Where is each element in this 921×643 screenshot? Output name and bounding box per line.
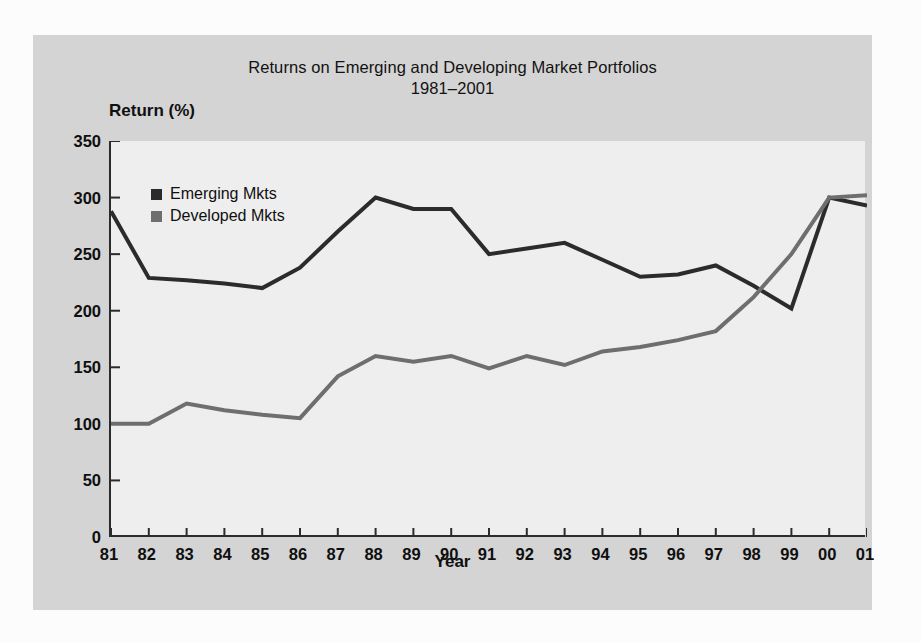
legend-label: Emerging Mkts	[170, 185, 277, 203]
figure-page: Returns on Emerging and Developing Marke…	[0, 0, 921, 643]
chart-legend: Emerging MktsDeveloped Mkts	[151, 183, 285, 227]
chart-title-line2: 1981–2001	[33, 78, 872, 99]
y-tick-label: 300	[41, 188, 101, 207]
series-line	[111, 195, 867, 424]
y-axis-label: Return (%)	[109, 101, 195, 121]
y-tick-label: 100	[41, 414, 101, 433]
y-tick-label: 250	[41, 245, 101, 264]
y-tick-label: 50	[41, 471, 101, 490]
y-tick-label: 0	[41, 528, 101, 547]
legend-swatch-icon	[151, 189, 162, 200]
chart-panel: Returns on Emerging and Developing Marke…	[33, 35, 872, 610]
x-axis-label: Year	[33, 552, 872, 572]
y-tick-label: 200	[41, 301, 101, 320]
legend-item: Developed Mkts	[151, 205, 285, 227]
legend-item: Emerging Mkts	[151, 183, 285, 205]
y-tick-label: 150	[41, 358, 101, 377]
legend-label: Developed Mkts	[170, 207, 285, 225]
y-tick-label: 350	[41, 132, 101, 151]
legend-swatch-icon	[151, 211, 162, 222]
chart-title-line1: Returns on Emerging and Developing Marke…	[248, 58, 657, 76]
chart-title: Returns on Emerging and Developing Marke…	[33, 57, 872, 99]
